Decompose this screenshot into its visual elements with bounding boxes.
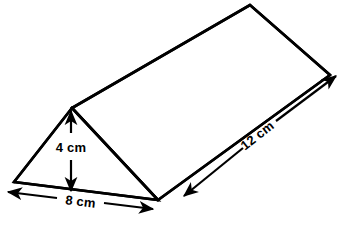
base-dimension-arrow-right [104,203,153,209]
prism-drawing: 4 cm 8 cm 12 cm [0,0,346,225]
base-dimension-arrow-left [8,192,57,198]
base-dimension-label: 8 cm [65,192,97,210]
prism-body [14,5,330,200]
height-dimension-label: 4 cm [56,140,86,155]
triangular-prism-diagram: 4 cm 8 cm 12 cm [0,0,346,225]
